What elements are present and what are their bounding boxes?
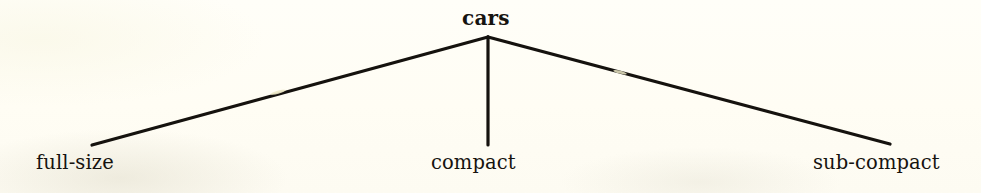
edge-root-full-size — [92, 37, 488, 145]
tree-diagram: cars full-size compact sub-compact — [0, 0, 981, 193]
node-label-sub-compact: sub-compact — [813, 153, 940, 173]
node-label-compact: compact — [431, 153, 516, 173]
node-label-full-size: full-size — [36, 153, 114, 173]
edge-root-sub-compact — [488, 37, 890, 144]
node-label-cars: cars — [462, 8, 510, 28]
